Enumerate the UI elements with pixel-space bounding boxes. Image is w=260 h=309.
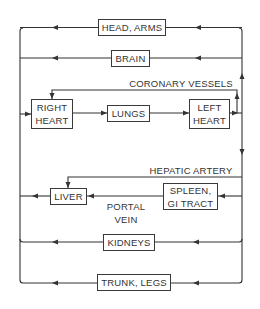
node-trunk-legs: TRUNK, LEGS: [97, 274, 171, 291]
circulation-wires: [0, 0, 260, 309]
node-liver: LIVER: [50, 188, 87, 205]
node-lungs: LUNGS: [107, 105, 150, 122]
node-right-heart: RIGHT HEART: [31, 99, 73, 129]
label-coronary-vessels: CORONARY VESSELS: [128, 77, 234, 90]
return-trunk-line: [20, 28, 23, 283]
node-brain: BRAIN: [111, 50, 150, 67]
node-kidneys: KIDNEYS: [103, 234, 155, 251]
label-portal-vein: PORTAL VEIN: [103, 200, 149, 226]
node-left-heart: LEFT HEART: [189, 99, 230, 129]
label-hepatic-artery: HEPATIC ARTERY: [145, 164, 237, 177]
arterial-trunk-line: [239, 28, 242, 283]
node-spleen-gi-tract: SPLEEN, GI TRACT: [163, 183, 218, 210]
node-head-arms: HEAD, ARMS: [98, 19, 166, 36]
